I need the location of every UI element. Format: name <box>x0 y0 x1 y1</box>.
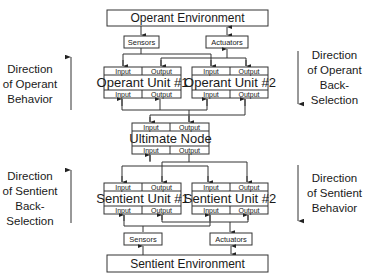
operant-behavior-label: Direction of Operant Behavior <box>0 62 60 107</box>
ultimate-node-label: Ultimate Node <box>129 131 211 146</box>
label-line: Direction <box>0 62 60 77</box>
label-line: Selection <box>303 93 366 108</box>
sentient-sensors-label: Sensors <box>129 235 157 244</box>
label-line: Selection <box>0 214 60 229</box>
sentient-unit-2: Input Output Sentient Unit #2 Input Outp… <box>184 183 277 215</box>
label-line: Back- <box>303 78 366 93</box>
operant-environment-label: Operant Environment <box>130 11 245 25</box>
sentient-unit-1-label: Sentient Unit #1 <box>96 191 189 206</box>
sentient-environment-box: Sentient Environment <box>107 255 268 272</box>
sentient-actuators-label: Actuators <box>215 235 247 244</box>
input-port-label: Input <box>115 91 131 99</box>
ultimate-node: Input Output Ultimate Node Input Output <box>129 123 211 155</box>
label-line: Behavior <box>303 201 366 216</box>
operant-unit-1-label: Operant Unit #1 <box>97 75 189 90</box>
output-port-label: Output <box>238 91 259 99</box>
label-line: Direction <box>303 171 366 186</box>
operant-back-selection-label: Direction of Operant Back- Selection <box>303 48 366 108</box>
label-line: Behavior <box>0 92 60 107</box>
output-port-label: Output <box>151 91 172 99</box>
input-port-label: Input <box>203 207 219 215</box>
operant-actuators-box: Actuators <box>206 36 248 48</box>
input-port-label: Input <box>115 207 131 215</box>
output-port-label: Output <box>238 207 259 215</box>
operant-actuators-label: Actuators <box>211 38 243 47</box>
label-line: Direction <box>303 48 366 63</box>
sentient-unit-2-label: Sentient Unit #2 <box>184 191 277 206</box>
label-line: Back- <box>0 199 60 214</box>
ultimate-to-operant-connector <box>122 99 245 122</box>
operant-sensors-box: Sensors <box>124 36 159 48</box>
diagram-canvas: Operant Environment Sensors Actuators In… <box>0 0 366 278</box>
sentient-unit-1: Input Output Sentient Unit #1 Input Outp… <box>96 183 189 215</box>
input-port-label: Input <box>143 147 159 155</box>
label-line: Direction <box>0 169 60 184</box>
sentient-actuators-box: Actuators <box>210 233 252 245</box>
sentient-back-selection-label: Direction of Sentient Back- Selection <box>0 169 60 229</box>
sentient-sensors-box: Sensors <box>124 233 162 245</box>
operant-unit-2: Input Output Operant Unit #2 Input Outpu… <box>184 67 276 99</box>
operant-unit-1: Input Output Operant Unit #1 Input Outpu… <box>97 67 189 99</box>
label-line: of Sentient <box>303 186 366 201</box>
operant-outputs-to-actuators-connector <box>161 49 246 66</box>
operant-unit-2-label: Operant Unit #2 <box>184 75 276 90</box>
label-line: of Operant <box>0 77 60 92</box>
label-line: of Operant <box>303 63 366 78</box>
sensors-to-operant-inputs-connector <box>123 48 211 66</box>
operant-sensors-label: Sensors <box>128 38 156 47</box>
output-port-label: Output <box>179 147 200 155</box>
sentient-environment-label: Sentient Environment <box>130 257 245 271</box>
label-line: of Sentient <box>0 184 60 199</box>
operant-environment-box: Operant Environment <box>107 10 268 26</box>
output-port-label: Output <box>151 207 172 215</box>
sentient-behavior-label: Direction of Sentient Behavior <box>303 171 366 216</box>
input-port-label: Input <box>203 91 219 99</box>
ultimate-to-sentient-connector <box>122 154 247 182</box>
sentient-io-connector <box>124 215 248 232</box>
